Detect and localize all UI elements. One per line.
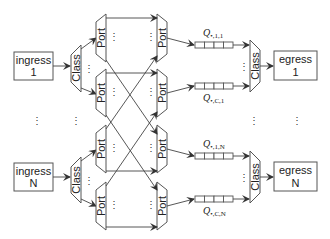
port-label: Port: [95, 83, 107, 103]
ingress-port-3: Port ⋮: [95, 125, 119, 173]
arrow-class1-port2: [81, 88, 96, 94]
ingress-1-node: ingress 1: [14, 52, 53, 80]
arrow-port-queue: [167, 38, 194, 45]
egress-1-label: egress: [279, 53, 313, 65]
ellipsis: ⋮: [146, 31, 156, 42]
arrow-classN-port4: [81, 199, 96, 206]
crossbar-links: [106, 18, 157, 227]
queue-1-n: Q•,1,N: [195, 138, 233, 159]
ingress-n-label: ingress: [16, 165, 52, 177]
queue-label: Q•,1,N: [203, 138, 225, 151]
egress-n-index: N: [292, 177, 300, 189]
ellipsis: ⋮: [109, 86, 119, 97]
port-label: Port: [95, 139, 107, 159]
arrow-class1-port1: [81, 38, 96, 49]
queue-label: Q•,1,1: [203, 27, 224, 40]
ellipsis: ⋮: [84, 63, 94, 74]
ellipsis: ⋮: [146, 86, 156, 97]
egress-class-n: Class ⋮: [239, 151, 261, 203]
ingress-n-index: N: [30, 177, 38, 189]
vertical-ellipsis: ⋮: [71, 115, 81, 126]
egress-n-node: egress N: [274, 162, 317, 191]
class-label: Class: [249, 52, 261, 80]
switch-architecture-diagram: ingress 1 ingress N Class ⋮ Class ⋮ Port…: [0, 0, 330, 239]
class-label: Class: [249, 163, 261, 191]
port-label: Port: [156, 28, 168, 48]
queue-label: Q•,C,N: [203, 205, 226, 218]
port-label: Port: [156, 196, 168, 216]
ingress-port-4: Port ⋮: [95, 182, 119, 230]
egress-class-1: Class ⋮: [239, 40, 261, 92]
arrow-port-queue: [167, 86, 194, 93]
egress-port-3: Port ⋮: [146, 125, 168, 173]
egress-1-node: egress 1: [274, 51, 317, 80]
arrow-port-queue: [167, 149, 194, 156]
queue-label: Q•,C,1: [203, 92, 225, 105]
ingress-1-index: 1: [30, 66, 36, 78]
class-label: Class: [70, 54, 82, 82]
ellipsis: ⋮: [109, 31, 119, 42]
ellipsis: ⋮: [109, 142, 119, 153]
ellipsis: ⋮: [146, 199, 156, 210]
vertical-ellipsis: ⋮: [249, 115, 259, 126]
ingress-port-1: Port ⋮: [95, 14, 119, 62]
ingress-port-2: Port ⋮: [95, 69, 119, 117]
ellipsis: ⋮: [239, 61, 249, 72]
arrow-classN-port3: [81, 150, 96, 161]
ellipsis: ⋮: [84, 175, 94, 186]
ingress-1-label: ingress: [16, 54, 52, 66]
egress-n-label: egress: [279, 164, 313, 176]
egress-1-index: 1: [292, 66, 298, 78]
vertical-ellipsis: ⋮: [292, 115, 302, 126]
ingress-n-node: ingress N: [14, 163, 53, 191]
ellipsis: ⋮: [109, 199, 119, 210]
ellipsis: ⋮: [239, 172, 249, 183]
ingress-class-1: Class ⋮: [70, 45, 94, 92]
egress-port-1: Port ⋮: [146, 14, 168, 62]
port-label: Port: [156, 139, 168, 159]
class-label: Class: [70, 166, 82, 194]
queue-1-1: Q•,1,1: [195, 27, 233, 48]
port-label: Port: [95, 28, 107, 48]
arrow-port-queue: [167, 199, 194, 206]
port-label: Port: [95, 196, 107, 216]
port-label: Port: [156, 83, 168, 103]
egress-port-2: Port ⋮: [146, 69, 168, 117]
vertical-ellipsis: ⋮: [32, 115, 42, 126]
ellipsis: ⋮: [146, 142, 156, 153]
queue-c-n: Q•,C,N: [195, 196, 233, 218]
queue-c-1: Q•,C,1: [195, 83, 233, 105]
ingress-class-n: Class ⋮: [70, 157, 94, 203]
